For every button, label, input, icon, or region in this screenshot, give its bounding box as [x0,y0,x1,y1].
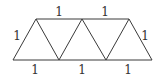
label-bottom-3: 1 [124,63,132,77]
triangle-strip-diagram: 1 1 1 1 1 1 1 [0,0,158,77]
label-top-2: 1 [101,5,109,19]
diagonal-edge-2 [36,19,59,60]
label-top-1: 1 [55,5,63,19]
label-bottom-2: 1 [78,63,86,77]
label-bottom-1: 1 [31,63,39,77]
diagonal-edge-4 [82,19,106,60]
label-right: 1 [141,29,149,43]
diagonal-edge-3 [59,19,82,60]
diagonal-edge-5 [106,19,129,60]
label-left: 1 [13,29,21,43]
